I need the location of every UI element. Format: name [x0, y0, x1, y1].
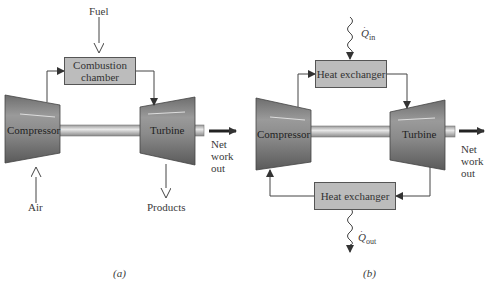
- heat-exchanger-bottom-label: Heat exchanger: [321, 190, 390, 202]
- net-work-b-label-2: work: [461, 155, 484, 167]
- caption-a: (a): [113, 267, 126, 279]
- net-work-a-label-2: work: [211, 150, 234, 162]
- heat-exchanger-top-box: Heat exchanger: [315, 60, 387, 88]
- diagram-graphics: [0, 0, 487, 282]
- air-label: Air: [28, 201, 43, 213]
- q-out-label: ·Qout: [358, 231, 376, 248]
- turbine-b-label: Turbine: [402, 128, 436, 140]
- net-work-b-label-3: out: [461, 167, 475, 179]
- heat-exchanger-bottom-box: Heat exchanger: [314, 182, 396, 210]
- heat-exchanger-top-label: Heat exchanger: [317, 68, 386, 80]
- net-work-a-label-3: out: [211, 162, 225, 174]
- q-in-label: ·Qin: [361, 27, 375, 44]
- turbine-a-label: Turbine: [150, 124, 184, 136]
- net-work-b-label-1: Net: [461, 143, 477, 155]
- fuel-label: Fuel: [89, 5, 109, 17]
- compressor-b-label: Compressor: [257, 128, 310, 140]
- net-work-a-label-1: Net: [211, 138, 227, 150]
- combustion-label-2: chamber: [81, 71, 119, 83]
- products-label: Products: [147, 201, 186, 213]
- combustion-chamber-box: Combustion chamber: [64, 57, 136, 85]
- compressor-a-label: Compressor: [7, 124, 60, 136]
- diagram-a: [5, 17, 236, 203]
- caption-b: (b): [363, 267, 376, 279]
- combustion-label-1: Combustion: [73, 59, 127, 71]
